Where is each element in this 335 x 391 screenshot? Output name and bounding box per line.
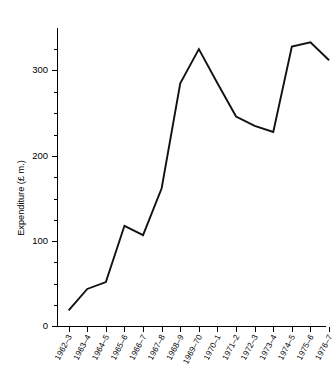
y-axis-tick-labels: 0 100 200 300	[32, 64, 48, 331]
line-chart: Expenditure (£ m.) 0 100	[0, 0, 335, 391]
y-tick-label-0: 0	[43, 320, 48, 331]
chart-canvas: Expenditure (£ m.) 0 100	[0, 0, 335, 391]
y-axis-label: Expenditure (£ m.)	[16, 160, 26, 236]
x-axis-ticks	[70, 327, 330, 332]
x-tick-label-14: 1976–7	[314, 333, 335, 362]
data-series-line	[69, 42, 329, 310]
y-tick-label-300: 300	[32, 64, 48, 75]
y-axis-major-ticks	[52, 71, 58, 327]
x-axis-tick-labels: 1962–31963–41964–51965–61966–71967–81968…	[53, 333, 334, 366]
y-tick-label-200: 200	[32, 150, 48, 161]
y-axis-minor-ticks	[54, 50, 58, 306]
y-tick-label-100: 100	[32, 235, 48, 246]
